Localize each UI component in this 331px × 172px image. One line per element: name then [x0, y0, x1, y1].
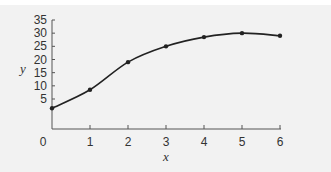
x-tick-label: 3: [163, 135, 170, 149]
y-tick-label: 5: [40, 92, 47, 106]
x-tick-label: 2: [125, 135, 132, 149]
x-tick-label: 4: [201, 135, 208, 149]
line-chart: 5101520253035 0123456 y x: [0, 0, 331, 172]
y-tick-label: 20: [34, 53, 48, 67]
x-tick-label: 5: [239, 135, 246, 149]
y-axis: 5101520253035: [34, 13, 55, 129]
data-point-marker: [240, 31, 244, 35]
y-tick-label: 25: [34, 39, 48, 53]
data-point-marker: [88, 88, 92, 92]
y-tick-label: 15: [34, 66, 48, 80]
data-point-marker: [50, 106, 54, 110]
data-series: [50, 31, 282, 110]
data-point-marker: [202, 35, 206, 39]
y-tick-label: 35: [34, 13, 48, 27]
x-tick-label: 1: [87, 135, 94, 149]
x-axis: 0123456: [40, 125, 284, 149]
data-point-marker: [126, 60, 130, 64]
data-point-marker: [278, 34, 282, 38]
y-axis-label: y: [18, 61, 26, 76]
y-tick-label: 30: [34, 26, 48, 40]
x-tick-label: 6: [277, 135, 284, 149]
x-axis-label: x: [162, 149, 169, 164]
y-tick-label: 10: [34, 79, 48, 93]
x-tick-label: 0: [40, 135, 47, 149]
data-point-marker: [164, 44, 168, 48]
